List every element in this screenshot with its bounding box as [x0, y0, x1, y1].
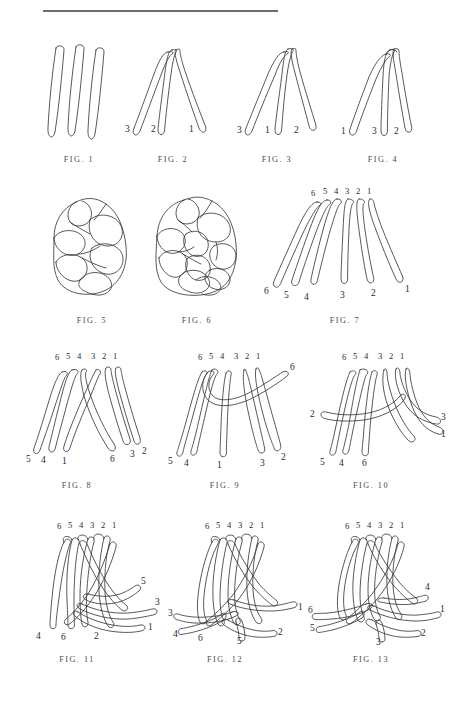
figure-7: 6 5 4 3 2 1 6 5 4 3 2 1	[260, 186, 435, 306]
fig7-top-label-1: 1	[367, 186, 371, 196]
fig11-top-label-4: 4	[79, 520, 84, 530]
fig11-top-label-2: 2	[101, 520, 105, 530]
fig2-strands	[133, 49, 206, 135]
fig8-bottom-label-1: 1	[62, 456, 67, 466]
fig12-side-label-2: 2	[278, 627, 283, 637]
caption-fig-10: FIG. 10	[326, 481, 416, 490]
fig13-side-label-4: 4	[425, 582, 430, 592]
figure-13: 6 5 4 3 2 1 6 5 4 1 2 3	[308, 520, 450, 645]
caption-fig-4: FIG. 4	[338, 155, 428, 164]
fig4-bottom-label-2: 2	[394, 126, 399, 136]
fig13-top-label-6: 6	[345, 521, 350, 531]
fig13-side-label-6: 6	[308, 605, 313, 615]
fig1-strands	[48, 45, 104, 139]
fig12-bottom-label-4: 4	[173, 629, 178, 639]
fig13-strands	[312, 534, 441, 642]
fig9-top-label-6: 6	[198, 352, 203, 362]
fig7-top-label-2: 2	[356, 186, 360, 196]
fig9-bottom-label-5: 5	[168, 456, 173, 466]
fig4-bottom-label-1: 1	[341, 126, 346, 136]
fig13-top-label-5: 5	[356, 520, 360, 530]
fig13-top-label-3: 3	[378, 520, 382, 530]
fig13-top-label-4: 4	[367, 520, 372, 530]
fig12-top-label-6: 6	[205, 521, 210, 531]
fig8-top-label-6: 6	[55, 352, 60, 362]
fig11-top-label-5: 5	[68, 520, 72, 530]
fig13-side-label-5: 5	[310, 623, 315, 633]
fig13-side-label-1: 1	[440, 604, 445, 614]
caption-fig-12: FIG. 12	[180, 655, 270, 664]
caption-fig-11: FIG. 11	[32, 655, 122, 664]
fig8-top-label-2: 2	[102, 351, 106, 361]
fig10-strands	[321, 368, 443, 456]
fig2-bottom-label-3: 3	[125, 124, 130, 134]
fig8-top-label-5: 5	[66, 351, 70, 361]
fig12-top-label-4: 4	[227, 520, 232, 530]
fig8-bottom-label-2: 2	[142, 446, 147, 456]
fig10-bottom-label-5: 5	[320, 457, 325, 467]
fig10-side-label-1: 1	[441, 429, 446, 439]
fig5-strands	[54, 198, 127, 295]
fig10-top-label-1: 1	[400, 351, 404, 361]
fig12-bottom-label-6: 6	[198, 633, 203, 643]
fig9-top-label-3: 3	[234, 351, 238, 361]
figure-4: 1 3 2	[342, 44, 428, 144]
fig10-side-label-3: 3	[441, 412, 446, 422]
fig11-top-label-1: 1	[112, 520, 116, 530]
fig9-strands	[177, 368, 288, 457]
header-rule	[43, 10, 278, 12]
fig11-side-label-5: 5	[141, 576, 146, 586]
figure-plate: FIG. 1 3 2 1 FIG. 2	[0, 0, 454, 705]
caption-fig-5: FIG. 5	[46, 316, 138, 325]
fig10-bottom-label-6: 6	[362, 458, 367, 468]
fig7-bottom-label-1: 1	[405, 284, 410, 294]
figure-10: 6 5 4 3 2 1 2 3 1 5 4 6	[308, 350, 448, 470]
figure-5	[46, 192, 138, 300]
fig7-bottom-label-4: 4	[304, 292, 309, 302]
fig10-top-label-6: 6	[342, 352, 347, 362]
fig8-bottom-label-5: 5	[26, 454, 31, 464]
fig10-bottom-label-4: 4	[339, 458, 344, 468]
fig11-top-label-3: 3	[90, 520, 94, 530]
fig7-bottom-label-3: 3	[340, 290, 345, 300]
fig9-bottom-label-3: 3	[260, 458, 265, 468]
caption-fig-1: FIG. 1	[34, 155, 124, 164]
figure-2: 3 2 1	[128, 44, 218, 144]
fig4-strands	[349, 49, 411, 136]
figure-1	[44, 44, 110, 144]
fig12-side-label-1: 1	[298, 602, 303, 612]
fig12-top-label-2: 2	[249, 520, 253, 530]
fig8-bottom-label-3: 3	[130, 449, 135, 459]
figure-6	[148, 192, 246, 300]
fig9-top-label-5: 5	[209, 351, 213, 361]
fig7-top-label-6: 6	[311, 188, 316, 198]
fig3-bottom-label-1: 1	[265, 125, 270, 135]
fig9-top-label-2: 2	[245, 351, 249, 361]
caption-fig-8: FIG. 8	[32, 481, 122, 490]
fig13-top-label-1: 1	[400, 520, 404, 530]
fig10-side-label-2: 2	[310, 409, 315, 419]
fig12-strands	[174, 534, 297, 641]
fig11-bottom-label-4: 4	[36, 631, 41, 641]
fig9-top-label-4: 4	[220, 351, 225, 361]
figure-9: 6 5 4 3 2 1 6 5 4 1 3 2	[168, 350, 303, 470]
fig11-top-label-6: 6	[57, 521, 62, 531]
fig6-strands	[156, 197, 236, 295]
fig9-bottom-label-2: 2	[281, 452, 286, 462]
fig12-top-label-1: 1	[260, 520, 264, 530]
caption-fig-6: FIG. 6	[148, 316, 246, 325]
fig2-bottom-label-1: 1	[189, 124, 194, 134]
caption-fig-2: FIG. 2	[128, 155, 218, 164]
fig8-top-label-4: 4	[77, 351, 82, 361]
fig13-top-label-2: 2	[389, 520, 393, 530]
fig3-strands	[245, 48, 316, 135]
caption-fig-13: FIG. 13	[326, 655, 416, 664]
figure-8: 6 5 4 3 2 1 5 4 1 6 3 2	[24, 350, 154, 470]
fig8-top-label-1: 1	[113, 351, 117, 361]
figure-3: 3 1 2	[238, 44, 324, 144]
fig3-bottom-label-2: 2	[294, 125, 299, 135]
fig7-top-label-3: 3	[345, 186, 349, 196]
fig11-side-label-3: 3	[155, 597, 160, 607]
fig3-bottom-label-3: 3	[237, 125, 242, 135]
fig9-bottom-label-1: 1	[217, 460, 222, 470]
